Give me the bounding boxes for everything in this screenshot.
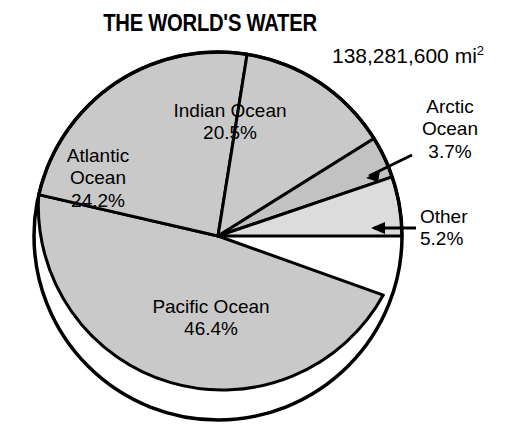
slice-label-atlantic-name-1: Atlantic (36, 145, 160, 167)
slice-label-arctic-name-1: Arctic (398, 96, 502, 118)
slice-label-indian-name: Indian Ocean (155, 100, 305, 122)
slice-label-atlantic-ocean: Atlantic Ocean 24.2% (36, 145, 160, 212)
slice-label-arctic-percent: 3.7% (398, 141, 502, 163)
slice-label-arctic-ocean: Arctic Ocean 3.7% (398, 96, 502, 163)
chart-canvas: THE WORLD'S WATER 138,281,600 mi2 Indian… (0, 0, 526, 435)
slice-label-pacific-ocean: Pacific Ocean 46.4% (118, 296, 304, 341)
slice-label-pacific-percent: 46.4% (118, 318, 304, 340)
slice-label-indian-ocean: Indian Ocean 20.5% (155, 100, 305, 145)
slice-label-indian-percent: 20.5% (155, 122, 305, 144)
slice-label-other-percent: 5.2% (420, 228, 512, 250)
slice-label-other-name: Other (420, 206, 512, 228)
slice-label-other: Other 5.2% (420, 206, 512, 251)
slice-label-atlantic-name-2: Ocean (36, 167, 160, 189)
slice-label-atlantic-percent: 24.2% (36, 190, 160, 212)
slice-label-pacific-name: Pacific Ocean (118, 296, 304, 318)
slice-label-arctic-name-2: Ocean (398, 118, 502, 140)
